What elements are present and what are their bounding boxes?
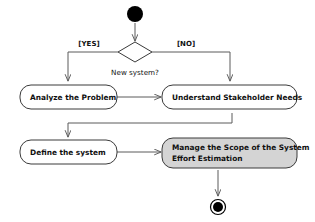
- guard-label-no: [NO]: [177, 40, 195, 48]
- edge-understand-to-define: [68, 113, 232, 137]
- activity-understand-stakeholder-needs[interactable]: Understand Stakeholder Needs: [162, 85, 303, 109]
- activity-analyze-the-problem[interactable]: Analyze the Problem: [20, 85, 117, 109]
- decision-node[interactable]: [118, 42, 152, 62]
- activity-define-the-system[interactable]: Define the system: [20, 140, 117, 164]
- activity-diagram-canvas: New system? [YES] [NO] Analyze the Probl…: [0, 0, 315, 222]
- activity-understand-stakeholder-needs-label: Understand Stakeholder Needs: [172, 93, 303, 102]
- activity-manage-scope[interactable]: Manage the Scope of the System Effort Es…: [162, 138, 310, 168]
- activity-define-the-system-label: Define the system: [30, 148, 106, 157]
- edge-decision-to-understand: [152, 52, 230, 81]
- decision-node-label: New system?: [111, 68, 159, 77]
- activity-manage-scope-label-line2: Effort Estimation: [172, 154, 242, 163]
- initial-node: [127, 6, 143, 22]
- activity-analyze-the-problem-label: Analyze the Problem: [30, 93, 117, 102]
- final-node: [211, 200, 226, 215]
- guard-label-yes: [YES]: [78, 40, 99, 48]
- activity-manage-scope-label-line1: Manage the Scope of the System: [172, 143, 310, 152]
